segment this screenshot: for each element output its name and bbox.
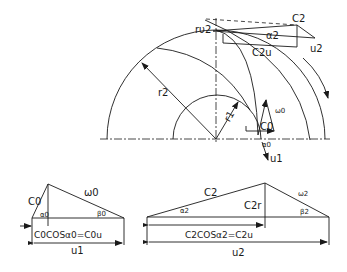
label-r1: r1 xyxy=(222,109,237,124)
tri2-c2r: C2r xyxy=(244,200,262,211)
tri1-alpha0: α0 xyxy=(40,211,49,219)
velocity-triangle-diagram: rυ2 C2 α2 C2u u2 r2 r1 ω0 C0 α0 u1 C0 α0… xyxy=(0,0,347,272)
label-c2u: C2u xyxy=(252,47,272,58)
tri1-c0: C0 xyxy=(28,196,41,207)
inner-circle xyxy=(173,95,261,139)
outlet-w2-line xyxy=(265,183,329,217)
outlet-w xyxy=(213,31,315,38)
outlet-dashed-line xyxy=(206,19,297,25)
label-u1: u1 xyxy=(270,153,283,164)
tri2-w2: ω2 xyxy=(298,190,308,198)
tri1-projection: C0COSα0=C0u xyxy=(34,230,102,240)
tri1-w0: ω0 xyxy=(84,187,99,198)
tri2-beta2: β2 xyxy=(300,208,309,216)
r2-arrow xyxy=(142,63,216,139)
tri2-u2: u2 xyxy=(232,247,245,258)
outlet-c2 xyxy=(213,25,297,31)
label-outlet-point: rυ2 xyxy=(195,24,211,35)
label-u2: u2 xyxy=(310,43,323,54)
label-alpha2: α2 xyxy=(266,30,279,41)
tri1-u1: u1 xyxy=(71,245,84,256)
impeller xyxy=(100,18,330,160)
label-c2: C2 xyxy=(292,13,305,24)
tri2-c2: C2 xyxy=(204,187,217,198)
label-c0: C0 xyxy=(260,121,273,132)
tri2-alpha2: α2 xyxy=(180,207,189,215)
label-r2: r2 xyxy=(158,87,168,98)
blade-1 xyxy=(157,48,250,110)
diagram-canvas: rυ2 C2 α2 C2u u2 r2 r1 ω0 C0 α0 u1 C0 α0… xyxy=(0,0,347,272)
tri2-projection: C2COSα2=C2u xyxy=(185,230,253,240)
tri1-beta0: β0 xyxy=(97,210,106,218)
label-alpha0: α0 xyxy=(262,141,271,149)
outlet-u2 xyxy=(297,25,315,38)
label-w0: ω0 xyxy=(275,107,285,115)
